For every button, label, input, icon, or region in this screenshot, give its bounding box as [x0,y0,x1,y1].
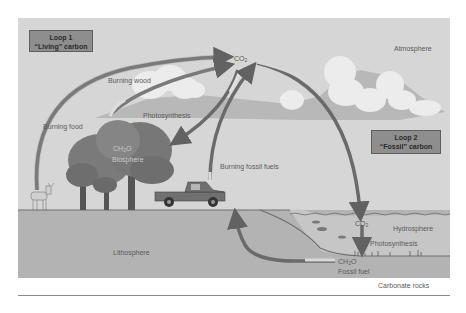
loop-2-title: Loop 2 [372,133,440,142]
co2-atmosphere-label: CO2 [234,55,247,63]
loop-2-label-box: Loop 2 “Fossil” carbon [371,130,441,154]
atmosphere-label: Atmosphere [394,45,432,52]
loop-1-subtitle: “Living” carbon [30,42,92,51]
biosphere-label: Biosphere [112,156,144,163]
bottom-separator [18,295,450,296]
co2-ocean-label: CO2 [355,220,368,228]
photosynthesis-land-label: Photosynthesis [143,112,190,119]
loop-2-subtitle: “Fossil” carbon [372,142,440,151]
lithosphere-label: Lithosphere [113,249,150,256]
hydrosphere-label: Hydrosphere [393,225,433,232]
loop-1-title: Loop 1 [30,33,92,42]
photosynthesis-ocean-label: Photosynthesis [370,240,417,247]
ch2o-fossil-label: CH2O [338,258,356,266]
burning-food-label: Burning food [43,123,83,130]
loop-1-label-box: Loop 1 “Living” carbon [29,30,93,52]
fossil-fuel-label: Fossil fuel [338,268,370,275]
carbon-cycle-diagram: Loop 1 “Living” carbon Loop 2 “Fossil” c… [0,0,466,313]
burning-wood-label: Burning wood [108,77,151,84]
burning-fossil-fuels-label: Burning fossil fuels [220,163,279,170]
ch2o-biosphere-label: CH2O [113,145,131,153]
carbonate-rocks-label: Carbonate rocks [378,282,429,289]
